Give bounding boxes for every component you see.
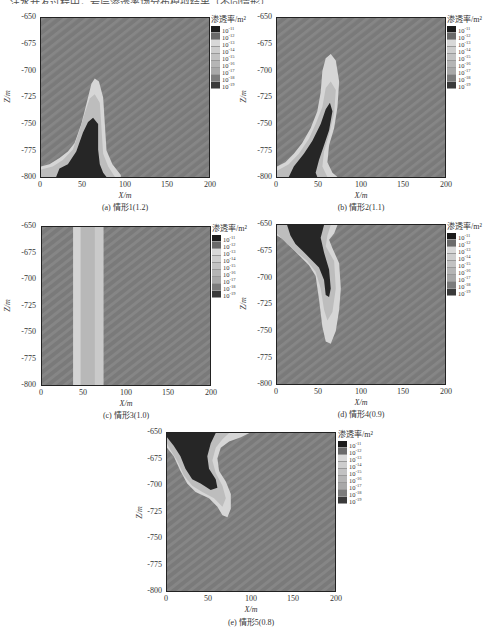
xtick: 0 <box>154 595 178 603</box>
color-swatch <box>338 448 347 455</box>
colorbar-legend: 渗透率/m² 10-1110-1210-1310-1410-1510-1610-… <box>338 430 378 504</box>
ytick: -800 <box>136 587 162 595</box>
x-axis-label: X/m <box>231 605 271 614</box>
ytick: -675 <box>136 455 162 463</box>
legend-level: 10-19 <box>338 497 378 504</box>
panel-e: -650 -675 -700 -725 -750 -775 -800 Z/m 0… <box>0 0 495 640</box>
color-swatch <box>338 497 347 504</box>
y-axis-label: Z/m <box>135 498 144 528</box>
ytick: -775 <box>136 561 162 569</box>
xtick: 150 <box>281 595 305 603</box>
color-swatch <box>338 476 347 483</box>
legend-title: 渗透率/m² <box>338 430 378 440</box>
color-swatch <box>338 462 347 469</box>
color-swatch <box>338 483 347 490</box>
xtick: 100 <box>239 595 263 603</box>
contour-shapes <box>167 433 335 591</box>
color-swatch <box>338 441 347 448</box>
color-swatch <box>338 455 347 462</box>
xtick: 50 <box>196 595 220 603</box>
ytick: -650 <box>136 428 162 436</box>
color-swatch <box>338 490 347 497</box>
caption-e: (e) 情形5(0.8) <box>191 616 311 627</box>
ytick: -700 <box>136 481 162 489</box>
contour-plot-e <box>166 432 336 592</box>
legend-rows: 10-1110-1210-1310-1410-1510-1610-1710-18… <box>338 441 378 504</box>
legend-level-label: 10-19 <box>349 496 362 505</box>
xtick: 200 <box>324 595 348 603</box>
ytick: -750 <box>136 534 162 542</box>
color-swatch <box>338 469 347 476</box>
